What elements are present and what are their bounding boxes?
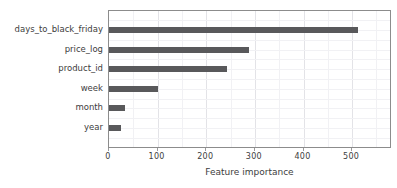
x-tick-label: 0 [105,153,110,161]
x-tick-label: 500 [343,153,359,161]
bar-week [109,86,158,92]
y-tick-label: product_id [0,64,103,73]
x-tick-label: 100 [149,153,165,161]
x-tick-mark [254,148,255,151]
gridline-horizontal-minor [109,79,390,80]
gridline-horizontal-minor [109,59,390,60]
feature-importance-chart: days_to_black_fridayprice_logproduct_idw… [0,0,397,188]
gridline-horizontal-minor [109,138,390,139]
gridline-horizontal-minor [109,99,390,100]
y-tick-label: price_log [0,45,103,54]
bar-days_to_black_friday [109,27,358,33]
y-tick-label: year [0,123,103,132]
x-tick-mark [205,148,206,151]
x-tick-mark [157,148,158,151]
x-tick-label: 400 [294,153,310,161]
bar-price_log [109,47,249,53]
y-tick-label: month [0,103,103,112]
x-tick-mark [108,148,109,151]
bar-month [109,105,125,111]
plot-area [108,10,391,148]
gridline-horizontal-minor [109,118,390,119]
x-tick-mark [351,148,352,151]
gridline-horizontal-major [109,128,390,129]
bar-product_id [109,66,227,72]
gridline-horizontal-minor [109,20,390,21]
x-tick-label: 300 [246,153,262,161]
gridline-horizontal-minor [109,40,390,41]
gridline-horizontal-major [109,108,390,109]
x-tick-mark [303,148,304,151]
y-tick-label: days_to_black_friday [0,25,103,34]
x-tick-label: 200 [197,153,213,161]
y-tick-label: week [0,84,103,93]
bar-year [109,125,121,131]
x-axis-title: Feature importance [205,168,293,177]
